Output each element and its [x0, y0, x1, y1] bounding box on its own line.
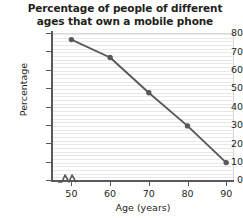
- y-tick-mark: [46, 180, 52, 181]
- x-tick-label-90: 90: [211, 189, 241, 199]
- chart-figure: Percentage of people of different ages t…: [0, 0, 243, 218]
- y-tick-mark: [46, 51, 52, 52]
- y-tick-mark: [46, 70, 52, 71]
- x-tick-mark: [110, 181, 111, 186]
- axis-break-zigzag-icon: [58, 172, 76, 184]
- chart-title: Percentage of people of different ages t…: [22, 2, 228, 27]
- y-tick-label-40: 40: [199, 102, 243, 112]
- y-tick-label-80: 80: [199, 28, 243, 38]
- x-axis-title: Age (years): [52, 202, 234, 213]
- data-point-marker: [146, 90, 151, 95]
- y-tick-label-50: 50: [199, 83, 243, 93]
- y-axis-title: Percentage: [18, 35, 29, 145]
- chart-title-line-1: Percentage of people of different: [28, 2, 223, 14]
- y-tick-mark: [46, 125, 52, 126]
- data-point-marker: [69, 37, 74, 42]
- x-tick-mark: [149, 181, 150, 186]
- y-tick-mark: [46, 88, 52, 89]
- x-tick-label-80: 80: [173, 189, 203, 199]
- data-point-marker: [107, 55, 112, 60]
- y-tick-mark: [46, 33, 52, 34]
- x-tick-label-70: 70: [134, 189, 164, 199]
- y-tick-label-30: 30: [199, 120, 243, 130]
- x-tick-label-60: 60: [95, 189, 125, 199]
- y-tick-label-0: 0: [199, 175, 243, 185]
- y-tick-label-10: 10: [199, 157, 243, 167]
- x-tick-mark: [226, 181, 227, 186]
- y-tick-mark: [46, 143, 52, 144]
- y-tick-label-70: 70: [199, 47, 243, 57]
- y-tick-label-60: 60: [199, 65, 243, 75]
- data-point-marker: [185, 123, 190, 128]
- x-tick-label-50: 50: [56, 189, 86, 199]
- chart-title-line-2: ages that own a mobile phone: [37, 15, 213, 27]
- y-tick-mark: [46, 162, 52, 163]
- x-tick-mark: [188, 181, 189, 186]
- y-tick-label-20: 20: [199, 139, 243, 149]
- y-tick-mark: [46, 107, 52, 108]
